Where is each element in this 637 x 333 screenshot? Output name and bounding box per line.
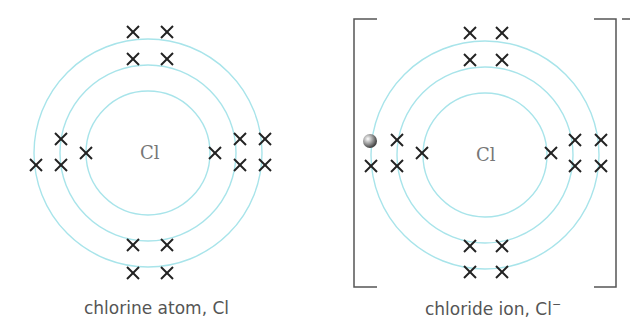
- ion-caption: chloride ion, Cl−: [425, 298, 561, 319]
- ion-caption-charge: −: [552, 298, 561, 311]
- atom-caption: chlorine atom, Cl: [84, 298, 229, 318]
- gained-electron-icon: [363, 134, 377, 148]
- atom-center-symbol: Cl: [140, 142, 160, 163]
- left-bracket: [354, 19, 377, 287]
- electron-configuration-figure: [0, 0, 637, 333]
- right-bracket: [594, 19, 616, 287]
- ion-center-symbol: Cl: [476, 144, 496, 165]
- ion-caption-text: chloride ion, Cl: [425, 299, 552, 319]
